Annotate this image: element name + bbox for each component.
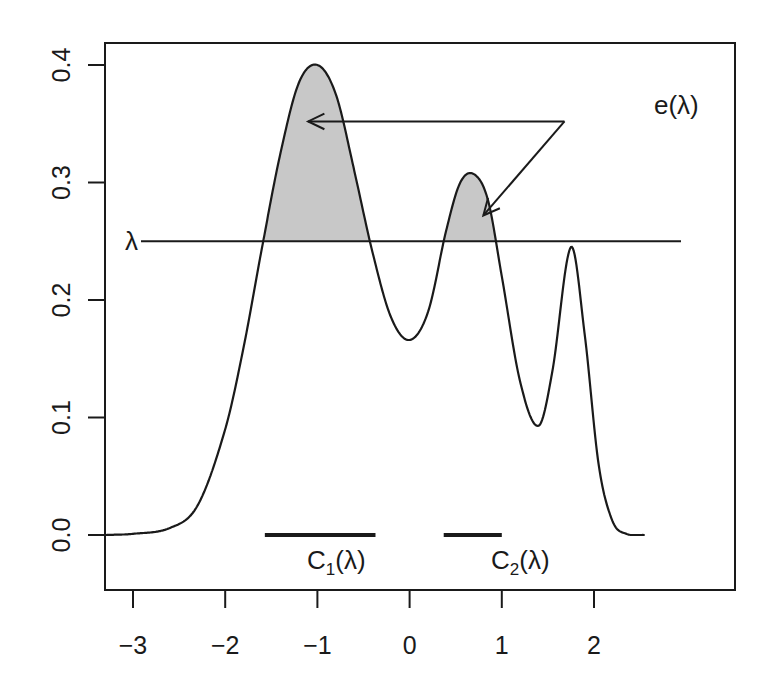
arrow-line [483, 121, 564, 215]
c2-lambda-label: C2(λ) [491, 545, 550, 579]
x-tick-label: 1 [495, 631, 509, 659]
y-tick-label: 0.1 [47, 400, 75, 435]
density-curve [105, 65, 644, 535]
y-tick-label: 0.4 [47, 48, 75, 83]
y-tick-label: 0.3 [47, 165, 75, 200]
x-tick-label: −1 [303, 631, 332, 659]
e-lambda-label: e(λ) [654, 90, 699, 120]
y-tick-label: 0.0 [47, 518, 75, 553]
x-tick-label: −3 [119, 631, 148, 659]
threshold-label: λ [125, 226, 138, 256]
density-level-set-chart: λ e(λ) −3−2−1012 0.00.10.20.30.4 C1(λ) C… [0, 0, 772, 689]
x-tick-label: 2 [587, 631, 601, 659]
shaded-regions [265, 65, 502, 242]
x-axis: −3−2−1012 [119, 590, 601, 659]
y-tick-label: 0.2 [47, 283, 75, 318]
c1-lambda-label: C1(λ) [307, 545, 366, 579]
x-tick-label: −2 [211, 631, 240, 659]
plot-frame [105, 43, 735, 590]
y-axis: 0.00.10.20.30.4 [47, 48, 105, 553]
x-tick-label: 0 [403, 631, 417, 659]
